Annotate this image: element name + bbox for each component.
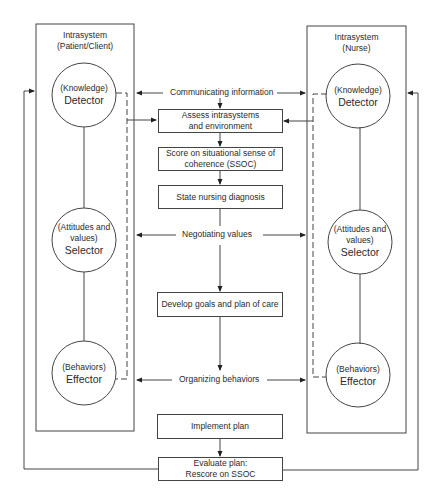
right-title-line1: Intrasystem: [335, 32, 379, 42]
right-selector-sub1: (Attitudes and: [326, 224, 394, 235]
left-detector-sub: (Knowledge): [52, 83, 116, 94]
left-selector-name: Selector: [50, 244, 118, 257]
right-effector-node: (Behaviors) Effector: [326, 364, 390, 388]
left-effector-name: Effector: [52, 373, 116, 386]
right-effector-sub: (Behaviors): [326, 364, 390, 375]
develop-label: Develop goals and plan of care: [161, 299, 278, 310]
develop-goals-box: Develop goals and plan of care: [157, 292, 283, 317]
left-effector-node: (Behaviors) Effector: [52, 362, 116, 386]
right-detector-node: (Knowledge) Detector: [326, 85, 390, 109]
left-title-line1: Intrasystem: [63, 30, 107, 40]
state-label: State nursing diagnosis: [176, 192, 264, 203]
organizing-behaviors-label: Organizing behaviors: [175, 374, 263, 385]
right-system-title: Intrasystem (Nurse): [307, 32, 406, 54]
right-detector-sub: (Knowledge): [326, 85, 390, 96]
right-selector-name: Selector: [326, 246, 394, 259]
negotiating-values-label: Negotiating values: [178, 229, 256, 240]
communicating-information-label: Communicating information: [166, 87, 277, 98]
score-line2: coherence (SSOC): [185, 159, 257, 169]
evaluate-line2: Rescore on SSOC: [186, 469, 256, 479]
right-selector-node: (Attitudes and values) Selector: [326, 224, 394, 259]
assess-line1: Assess intrasystems: [182, 110, 259, 120]
score-line1: Score on situational sense of: [166, 148, 275, 158]
left-selector-node: (Attitudes and values) Selector: [50, 222, 118, 257]
evaluate-line1: Evaluate plan:: [194, 458, 248, 468]
right-title-line2: (Nurse): [342, 43, 370, 53]
left-effector-sub: (Behaviors): [52, 362, 116, 373]
implement-label: Implement plan: [191, 421, 249, 432]
left-selector-sub1: (Attitudes and: [50, 222, 118, 233]
implement-plan-box: Implement plan: [157, 414, 283, 439]
assess-box: Assess intrasystemsand environment: [158, 109, 283, 133]
score-ssoc-box: Score on situational sense ofcoherence (…: [158, 147, 283, 171]
assess-line2: and environment: [189, 121, 252, 131]
right-detector-name: Detector: [326, 96, 390, 109]
right-selector-sub2: values): [326, 235, 394, 246]
left-system-title: Intrasystem (Patient/Client): [36, 30, 134, 52]
right-effector-name: Effector: [326, 375, 390, 388]
left-detector-node: (Knowledge) Detector: [52, 83, 116, 107]
nursing-diagnosis-box: State nursing diagnosis: [158, 185, 283, 209]
left-selector-sub2: values): [50, 233, 118, 244]
left-title-line2: (Patient/Client): [57, 41, 113, 51]
evaluate-plan-box: Evaluate plan:Rescore on SSOC: [158, 457, 283, 481]
left-detector-name: Detector: [52, 94, 116, 107]
